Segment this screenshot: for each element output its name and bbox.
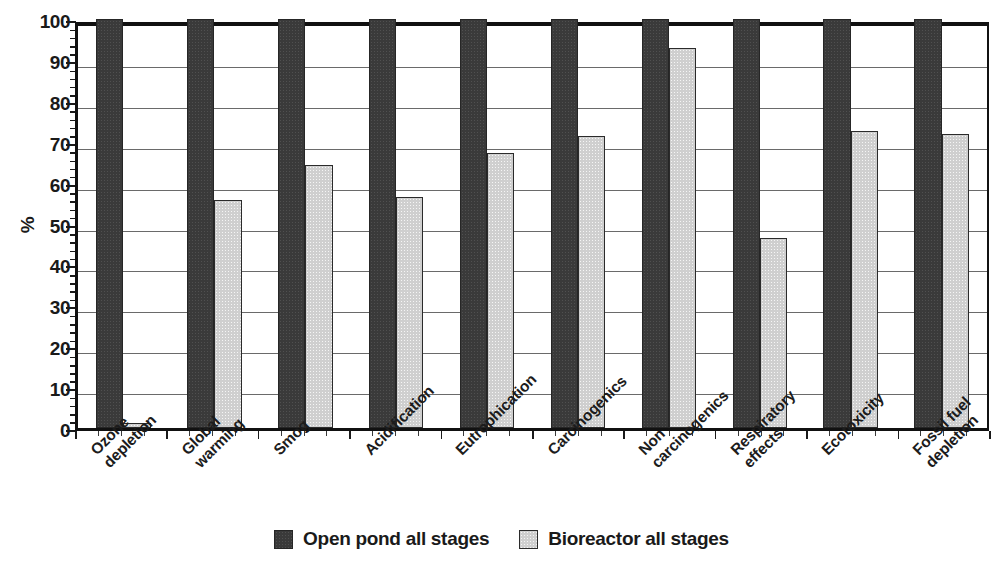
x-tick-mark xyxy=(166,431,168,439)
bar xyxy=(942,134,969,428)
x-tick-mark-minor xyxy=(418,431,419,436)
y-tick-label: 50 xyxy=(24,217,70,236)
y-tick-label: 70 xyxy=(24,135,70,154)
x-tick-mark xyxy=(806,431,808,439)
bar-group xyxy=(78,26,169,428)
x-tick-mark xyxy=(75,431,77,439)
y-tick-label: 100 xyxy=(24,12,70,31)
x-tick-mark xyxy=(532,431,534,439)
x-tick-mark xyxy=(715,431,717,439)
x-axis-tick-labels: Ozone depletionGlobal warmingSmogAcidifi… xyxy=(75,440,989,520)
y-tick-label: 90 xyxy=(24,53,70,72)
x-tick-mark-minor xyxy=(875,431,876,436)
chart-legend: Open pond all stagesBioreactor all stage… xyxy=(0,528,1003,550)
x-tick-mark-minor xyxy=(326,431,327,436)
x-tick-mark xyxy=(349,431,351,439)
x-tick-mark xyxy=(258,431,260,439)
y-tick-label: 40 xyxy=(24,257,70,276)
legend-label: Bioreactor all stages xyxy=(548,528,729,550)
y-tick-label: 80 xyxy=(24,94,70,113)
x-tick-mark xyxy=(989,431,991,439)
y-axis-tick-labels: 0102030405060708090100 xyxy=(10,0,70,580)
bar xyxy=(851,131,878,428)
legend-item: Open pond all stages xyxy=(274,528,489,550)
legend-item: Bioreactor all stages xyxy=(519,528,729,550)
bar-chart: % 0102030405060708090100 Ozone depletion… xyxy=(0,0,1003,580)
x-tick-mark xyxy=(441,431,443,439)
x-tick-mark-minor xyxy=(509,431,510,436)
y-tick-label: 10 xyxy=(24,380,70,399)
y-tick-label: 0 xyxy=(24,421,70,440)
x-tick-mark xyxy=(898,431,900,439)
bar xyxy=(578,136,605,428)
y-tick-label: 20 xyxy=(24,339,70,358)
legend-swatch-light xyxy=(519,530,538,549)
y-tick-label: 60 xyxy=(24,176,70,195)
legend-label: Open pond all stages xyxy=(303,528,489,550)
legend-swatch-dark xyxy=(274,530,293,549)
bar xyxy=(669,48,696,428)
y-tick-label: 30 xyxy=(24,298,70,317)
x-tick-mark-minor xyxy=(601,431,602,436)
bar xyxy=(96,19,123,428)
x-tick-mark xyxy=(623,431,625,439)
